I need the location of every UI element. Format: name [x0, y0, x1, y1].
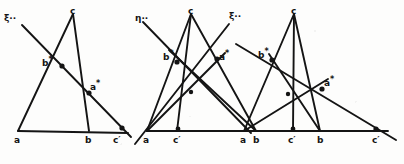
point-label-b-star: b*: [258, 48, 269, 60]
vertex-label-b: b: [317, 136, 323, 145]
vertex-label-c: c: [291, 7, 296, 16]
dot-c-prime: [176, 127, 181, 132]
dot-center: [286, 92, 290, 96]
point-label-b-star: b*: [163, 50, 174, 62]
vertex-label-c: c: [188, 7, 193, 16]
side-c-b: [73, 14, 89, 131]
transversal-xi: [135, 24, 229, 144]
vertex-label-a: a: [240, 136, 246, 145]
point-label-a-star: a*: [90, 80, 100, 92]
cevian-c-cprime: [293, 14, 294, 131]
dot-c-prime: [119, 125, 124, 130]
figure-3: a b c b* a* c′ c′: [236, 0, 404, 164]
transversal-eta: [143, 22, 251, 133]
point-label-c-prime-mark: ′: [118, 135, 120, 145]
point-label-c-prime-mark: ′: [178, 135, 180, 145]
point-label-c-prime-1-mark: ′: [293, 135, 295, 145]
point-label-a-star-mark: *: [96, 79, 100, 88]
base-line-a-b-cprime: [18, 131, 128, 133]
point-label-a-star-mark: *: [330, 75, 334, 84]
point-label-c-prime-2-mark: ′: [377, 135, 379, 145]
dot-c-prime-1: [291, 127, 296, 132]
vertex-label-a: a: [143, 136, 149, 145]
vertex-label-a: a: [14, 136, 20, 145]
dot-b-star: [269, 57, 274, 62]
point-label-a-star-mark: *: [225, 49, 229, 58]
point-label-a-star: a*: [219, 50, 229, 62]
dot-b-star: [59, 63, 64, 68]
vertex-label-b: b: [85, 136, 91, 145]
dot-c-prime-2: [373, 126, 378, 131]
point-label-b-star-mark: *: [264, 47, 268, 56]
dot-b-star: [174, 59, 179, 64]
line-label-eta: η··: [135, 14, 148, 23]
point-label-b-star: b*: [42, 56, 53, 68]
point-label-c-prime: c′: [113, 136, 121, 145]
figure-1: ξ·· a b c b* a* c′: [0, 0, 136, 164]
point-label-b-star-mark: *: [169, 49, 173, 58]
point-label-b-star-mark: *: [48, 55, 52, 64]
point-label-c-prime-1: c′: [288, 136, 296, 145]
point-label-a-star: a*: [324, 76, 334, 88]
point-label-c-prime-2: c′: [372, 136, 380, 145]
side-a-c: [244, 14, 294, 131]
vertex-label-c: c: [70, 7, 75, 16]
dot-center: [189, 90, 193, 94]
figure-sheet: ξ·· a b c b* a* c′: [0, 0, 404, 164]
line-label-xi: ξ··: [4, 14, 16, 23]
side-c-b: [294, 14, 320, 131]
point-label-c-prime: c′: [173, 136, 181, 145]
side-a-c: [18, 14, 73, 131]
